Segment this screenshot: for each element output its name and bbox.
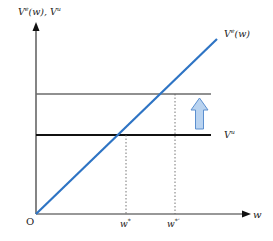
origin-label: O — [26, 216, 34, 227]
vu-label: Vu — [224, 128, 235, 140]
x-axis-arrow-icon — [242, 211, 251, 218]
curve-label: Ve(w) — [224, 27, 250, 39]
w-star-label: w* — [120, 217, 131, 229]
shift-up-arrow-icon — [191, 98, 208, 129]
w-star-prime-label: w*’ — [167, 217, 180, 229]
axes — [33, 22, 252, 218]
ve-curve — [36, 39, 217, 214]
x-axis-label: w — [253, 209, 262, 220]
y-axis-arrow-icon — [33, 22, 40, 31]
y-axis-label: Ve(w), Vu — [18, 5, 61, 17]
diagram: Ve(w), Vu Ve(w) Vu O w* w*’ w — [0, 0, 273, 241]
